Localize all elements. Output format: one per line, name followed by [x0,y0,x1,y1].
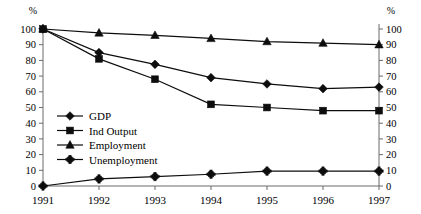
legend-marker-star-icon [66,155,74,163]
x-axis-tick-label: 1992 [88,194,110,206]
legend-group: GDPInd OutputEmploymentUnemployment [57,110,157,166]
x-axis-tick-label: 1994 [200,194,223,206]
right-axis-tick-label: 40 [386,118,397,129]
data-point [151,60,160,69]
data-point [96,55,103,62]
legend-label: GDP [89,110,111,122]
left-axis-tick-label: 50 [26,102,37,113]
legend-label: Unemployment [89,154,157,166]
data-point [375,83,384,92]
legend-marker-diamond-icon [66,112,75,121]
legend-item-ind-output: Ind Output [57,125,137,137]
right-axis-tick-label: 20 [386,149,397,160]
x-axis-tick-label: 1991 [32,194,54,206]
right-axis-tick-label: 60 [386,86,397,97]
right-axis-tick-label: 100 [386,24,402,35]
series-employment [39,25,383,48]
x-axis-tick-label: 1997 [368,194,391,206]
data-point [319,84,328,93]
data-point [39,182,47,190]
right-axis-tick-label: 90 [386,39,397,50]
legend-item-employment: Employment [57,139,146,151]
data-point [375,167,383,175]
data-point [208,101,215,108]
left-axis-tick-label: 60 [26,86,37,97]
left-axis-tick-label: 70 [26,71,37,82]
right-axis-tick-label: 50 [386,102,397,113]
data-point [319,167,327,175]
right-axis-tick-label: 80 [386,55,397,66]
legend-item-gdp: GDP [57,110,111,122]
left-axis-tick-label: 0 [31,181,36,192]
data-point [151,172,159,180]
left-axis-tick-label: 100 [20,24,36,35]
right-axis-tick-label: 70 [386,71,397,82]
legend-label: Ind Output [89,125,137,137]
left-axis-tick-label: 90 [26,39,37,50]
data-point [320,107,327,114]
data-point [263,167,271,175]
data-point [152,76,159,83]
right-axis-tick-label: 0 [386,181,391,192]
left-axis-tick-label: 80 [26,55,37,66]
data-point [376,107,383,114]
legend-label: Employment [89,139,146,151]
chart-canvas: %%01020304050607080901000102030405060708… [0,0,421,214]
right-axis-tick-label: 10 [386,165,397,176]
right-axis-tick-label: 30 [386,134,397,145]
legend-marker-square-icon [67,127,74,134]
data-point [95,175,103,183]
data-point [207,73,216,82]
left-axis-tick-label: 20 [26,149,37,160]
left-axis-unit-label: % [29,5,37,16]
legend-item-unemployment: Unemployment [57,154,157,166]
left-axis-tick-label: 10 [26,165,37,176]
x-axis-tick-label: 1996 [312,194,335,206]
x-axis-tick-label: 1995 [256,194,279,206]
x-axis-tick-label: 1993 [144,194,167,206]
left-axis-tick-label: 30 [26,134,37,145]
right-axis-unit-label: % [387,5,395,16]
line-chart: %%01020304050607080901000102030405060708… [0,0,421,214]
data-point [263,80,272,89]
data-point [207,170,215,178]
data-point [264,104,271,111]
left-axis-tick-label: 40 [26,118,37,129]
